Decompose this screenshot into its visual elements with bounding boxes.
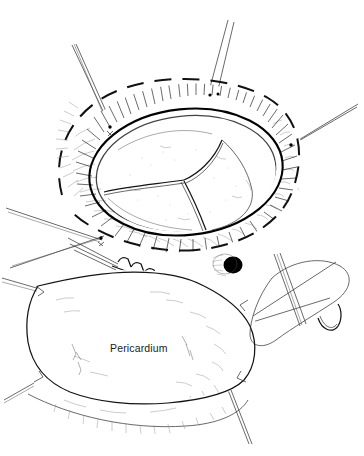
illustration-canvas: Pericardium (0, 0, 364, 456)
pericardium-label: Pericardium (110, 342, 168, 354)
surgical-illustration-figure: Pericardium (0, 0, 364, 456)
